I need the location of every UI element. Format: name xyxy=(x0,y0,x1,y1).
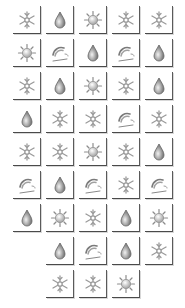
rain-icon xyxy=(83,43,103,63)
tile[interactable] xyxy=(145,237,173,265)
wind-icon xyxy=(149,175,169,195)
tile[interactable] xyxy=(79,171,107,199)
tile[interactable] xyxy=(145,105,173,133)
tile-board xyxy=(0,0,185,308)
sun-icon xyxy=(83,142,103,162)
snow-icon xyxy=(149,241,169,261)
tile[interactable] xyxy=(46,171,74,199)
rain-icon xyxy=(50,76,70,96)
tile[interactable] xyxy=(112,6,140,34)
tile[interactable] xyxy=(46,237,74,265)
tile[interactable] xyxy=(112,72,140,100)
sun-icon xyxy=(83,76,103,96)
tile[interactable] xyxy=(112,270,140,298)
sun-icon xyxy=(116,274,136,294)
tile[interactable] xyxy=(112,39,140,67)
snow-icon xyxy=(116,76,136,96)
tile[interactable] xyxy=(79,6,107,34)
tile[interactable] xyxy=(112,138,140,166)
rain-icon xyxy=(50,175,70,195)
rain-icon xyxy=(149,43,169,63)
snow-icon xyxy=(83,274,103,294)
tile[interactable] xyxy=(46,270,74,298)
rain-icon xyxy=(116,241,136,261)
tile[interactable] xyxy=(13,72,41,100)
tile[interactable] xyxy=(79,204,107,232)
snow-icon xyxy=(116,175,136,195)
tile[interactable] xyxy=(145,6,173,34)
tile[interactable] xyxy=(13,138,41,166)
rain-icon xyxy=(149,142,169,162)
tile[interactable] xyxy=(112,171,140,199)
sun-icon xyxy=(83,10,103,30)
tile[interactable] xyxy=(46,204,74,232)
tile[interactable] xyxy=(13,204,41,232)
rain-icon xyxy=(50,10,70,30)
wind-icon xyxy=(83,241,103,261)
tile[interactable] xyxy=(112,237,140,265)
tile[interactable] xyxy=(46,72,74,100)
snow-icon xyxy=(17,142,37,162)
snow-icon xyxy=(50,109,70,129)
tile[interactable] xyxy=(79,237,107,265)
tile[interactable] xyxy=(13,6,41,34)
wind-icon xyxy=(17,175,37,195)
tile[interactable] xyxy=(112,204,140,232)
snow-icon xyxy=(149,109,169,129)
wind-icon xyxy=(50,43,70,63)
snow-icon xyxy=(116,10,136,30)
snow-icon xyxy=(17,76,37,96)
tile[interactable] xyxy=(145,171,173,199)
tile[interactable] xyxy=(145,138,173,166)
tile[interactable] xyxy=(79,270,107,298)
tile[interactable] xyxy=(13,39,41,67)
snow-icon xyxy=(149,10,169,30)
tile[interactable] xyxy=(79,72,107,100)
sun-icon xyxy=(149,208,169,228)
tile[interactable] xyxy=(145,204,173,232)
tile[interactable] xyxy=(46,138,74,166)
rain-icon xyxy=(50,241,70,261)
tile[interactable] xyxy=(13,171,41,199)
tile[interactable] xyxy=(46,105,74,133)
snow-icon xyxy=(50,142,70,162)
rain-icon xyxy=(17,109,37,129)
rain-icon xyxy=(17,208,37,228)
tile[interactable] xyxy=(13,105,41,133)
sun-icon xyxy=(50,208,70,228)
tile[interactable] xyxy=(46,39,74,67)
sun-icon xyxy=(17,43,37,63)
rain-icon xyxy=(149,76,169,96)
tile[interactable] xyxy=(46,6,74,34)
wind-icon xyxy=(116,43,136,63)
tile[interactable] xyxy=(79,39,107,67)
snow-icon xyxy=(50,274,70,294)
snow-icon xyxy=(83,109,103,129)
tile[interactable] xyxy=(79,105,107,133)
snow-icon xyxy=(116,142,136,162)
tile[interactable] xyxy=(145,39,173,67)
snow-icon xyxy=(17,10,37,30)
tile[interactable] xyxy=(112,105,140,133)
wind-icon xyxy=(83,175,103,195)
rain-icon xyxy=(116,208,136,228)
wind-icon xyxy=(116,109,136,129)
snow-icon xyxy=(83,208,103,228)
tile[interactable] xyxy=(79,138,107,166)
tile[interactable] xyxy=(145,72,173,100)
